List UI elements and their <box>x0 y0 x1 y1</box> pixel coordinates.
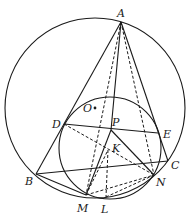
label-N: N <box>155 176 166 189</box>
label-B: B <box>24 175 33 188</box>
label-E: E <box>162 128 171 141</box>
dashed-segment-KL <box>106 150 108 197</box>
geometry-diagram: ABCDEPKMNLO <box>0 0 190 223</box>
label-C: C <box>171 159 180 172</box>
center-dot <box>94 107 97 110</box>
dashed-segment-MK <box>86 150 108 195</box>
dashed-segment-MN <box>86 175 154 195</box>
small-circle <box>59 97 161 199</box>
dashed-segment-LN <box>106 175 154 197</box>
dashed-segment-AN <box>121 22 154 175</box>
label-M: M <box>76 202 89 215</box>
label-A: A <box>116 7 125 20</box>
label-D: D <box>51 118 61 131</box>
label-P: P <box>111 116 120 129</box>
label-O: O <box>83 102 92 115</box>
dashed-segments <box>64 22 154 197</box>
center-O-dot <box>94 107 97 110</box>
solid-segments <box>36 22 168 195</box>
label-L: L <box>100 203 108 216</box>
label-K: K <box>111 142 121 155</box>
segment-AC <box>121 22 168 161</box>
